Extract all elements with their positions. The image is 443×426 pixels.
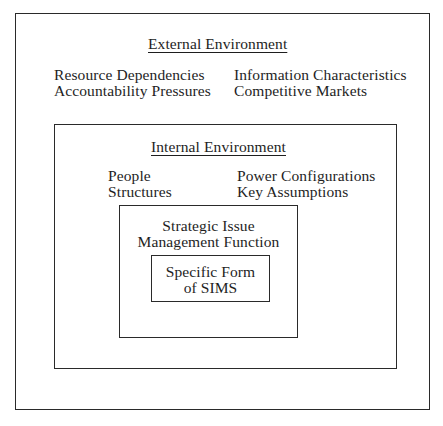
- function-label-line: Strategic Issue: [119, 217, 298, 234]
- sims-label-line: of SIMS: [151, 279, 270, 296]
- sims-label-line: Specific Form: [151, 263, 270, 280]
- internal-left-item: People: [108, 167, 151, 184]
- external-left-item: Accountability Pressures: [54, 82, 211, 99]
- external-environment-title: External Environment: [148, 35, 287, 52]
- internal-right-item: Key Assumptions: [237, 183, 348, 200]
- external-left-item: Resource Dependencies: [54, 66, 205, 83]
- external-right-item: Information Characteristics: [234, 66, 407, 83]
- internal-right-item: Power Configurations: [237, 167, 375, 184]
- internal-left-item: Structures: [108, 183, 172, 200]
- internal-environment-title: Internal Environment: [151, 138, 286, 155]
- external-right-item: Competitive Markets: [234, 82, 367, 99]
- function-label-line: Management Function: [119, 233, 298, 250]
